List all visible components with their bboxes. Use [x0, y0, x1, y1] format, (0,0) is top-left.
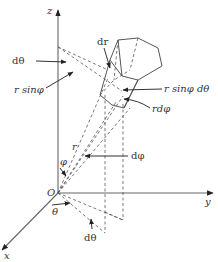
r-sin-phi-label: r sinφ: [14, 84, 44, 95]
d-theta-bottom-arrow: [91, 219, 92, 229]
dr-label: dr: [97, 36, 108, 47]
r-sin-phi-d-theta-arrow: [123, 89, 162, 90]
x-axis-label: x: [4, 250, 10, 261]
r-sin-phi-d-theta-label: r sinφ dθ: [164, 83, 209, 94]
r-d-phi-label: rdφ: [152, 103, 170, 114]
r-label: r: [72, 141, 78, 152]
theta-arrow: [52, 203, 70, 205]
phi-arrow: [60, 168, 66, 176]
r-sin-phi-arrow: [46, 72, 73, 88]
origin-label: O: [47, 187, 55, 198]
volume-element: [100, 38, 162, 108]
theta-label: θ: [52, 206, 58, 217]
spherical-volume-element-diagram: z y x O dθ r sinφ dr r sinφ dθ rdφ r φ d…: [0, 0, 218, 262]
d-theta-top-arrow: [36, 61, 66, 62]
x-axis: [2, 193, 58, 250]
d-phi-label: dφ: [131, 150, 144, 161]
d-theta-bottom-label: dθ: [84, 232, 96, 243]
dr-arrow: [104, 48, 110, 68]
diagram-canvas: z y x O dθ r sinφ dr r sinφ dθ rdφ r φ d…: [0, 0, 218, 262]
phi-label: φ: [60, 156, 67, 167]
labels: z y x O dθ r sinφ dr r sinφ dθ rdφ r φ d…: [4, 5, 211, 261]
y-axis-label: y: [204, 196, 211, 207]
d-theta-top-label: dθ: [12, 55, 24, 66]
z-axis-label: z: [46, 5, 53, 16]
